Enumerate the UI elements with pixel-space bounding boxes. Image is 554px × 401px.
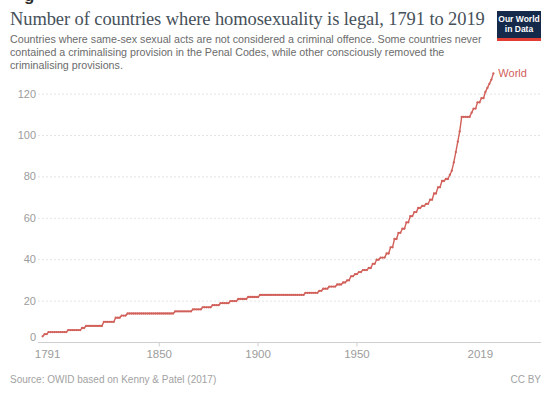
data-point-marker[interactable] — [101, 325, 103, 327]
data-point-marker[interactable] — [419, 207, 421, 209]
data-point-marker[interactable] — [134, 312, 136, 314]
data-point-marker[interactable] — [401, 228, 403, 230]
data-point-marker[interactable] — [378, 259, 380, 261]
data-point-marker[interactable] — [49, 331, 51, 333]
data-point-marker[interactable] — [121, 314, 123, 316]
data-point-marker[interactable] — [75, 329, 77, 331]
data-point-marker[interactable] — [239, 298, 241, 300]
data-point-marker[interactable] — [202, 306, 204, 308]
data-point-marker[interactable] — [65, 331, 67, 333]
data-point-marker[interactable] — [385, 252, 387, 254]
data-point-marker[interactable] — [57, 331, 59, 333]
data-point-marker[interactable] — [334, 285, 336, 287]
data-point-marker[interactable] — [136, 312, 138, 314]
data-point-marker[interactable] — [221, 302, 223, 304]
data-point-marker[interactable] — [461, 116, 463, 118]
data-point-marker[interactable] — [253, 296, 255, 298]
data-point-marker[interactable] — [231, 300, 233, 302]
data-point-marker[interactable] — [423, 205, 425, 207]
data-point-marker[interactable] — [215, 304, 217, 306]
data-point-marker[interactable] — [138, 312, 140, 314]
data-point-marker[interactable] — [194, 308, 196, 310]
data-point-marker[interactable] — [267, 294, 269, 296]
data-point-marker[interactable] — [249, 296, 251, 298]
data-point-marker[interactable] — [425, 203, 427, 205]
data-point-marker[interactable] — [271, 294, 273, 296]
data-point-marker[interactable] — [362, 269, 364, 271]
data-point-marker[interactable] — [476, 101, 478, 103]
data-point-marker[interactable] — [342, 281, 344, 283]
data-point-marker[interactable] — [330, 285, 332, 287]
data-point-marker[interactable] — [316, 292, 318, 294]
data-point-marker[interactable] — [403, 228, 405, 230]
data-point-marker[interactable] — [211, 304, 213, 306]
data-point-marker[interactable] — [200, 308, 202, 310]
data-point-marker[interactable] — [85, 325, 87, 327]
data-point-marker[interactable] — [465, 116, 467, 118]
data-point-marker[interactable] — [451, 170, 453, 172]
data-point-marker[interactable] — [435, 192, 437, 194]
data-point-marker[interactable] — [413, 211, 415, 213]
data-point-marker[interactable] — [245, 298, 247, 300]
data-point-marker[interactable] — [45, 333, 47, 335]
data-point-marker[interactable] — [447, 178, 449, 180]
data-point-marker[interactable] — [107, 321, 109, 323]
data-point-marker[interactable] — [427, 203, 429, 205]
data-point-marker[interactable] — [470, 112, 472, 114]
data-point-marker[interactable] — [474, 107, 476, 109]
data-point-marker[interactable] — [176, 310, 178, 312]
data-point-marker[interactable] — [370, 267, 372, 269]
data-point-marker[interactable] — [322, 288, 324, 290]
data-point-marker[interactable] — [142, 312, 144, 314]
data-point-marker[interactable] — [132, 312, 134, 314]
data-point-marker[interactable] — [314, 292, 316, 294]
data-point-marker[interactable] — [300, 294, 302, 296]
data-point-marker[interactable] — [449, 174, 451, 176]
data-point-marker[interactable] — [164, 312, 166, 314]
data-point-marker[interactable] — [374, 263, 376, 265]
data-point-marker[interactable] — [360, 271, 362, 273]
data-point-marker[interactable] — [229, 300, 231, 302]
license-link[interactable]: CC BY — [510, 374, 541, 385]
data-point-marker[interactable] — [431, 199, 433, 201]
data-point-marker[interactable] — [69, 329, 71, 331]
data-point-marker[interactable] — [51, 331, 53, 333]
data-point-marker[interactable] — [344, 281, 346, 283]
data-point-marker[interactable] — [393, 238, 395, 240]
data-point-marker[interactable] — [257, 296, 259, 298]
data-point-marker[interactable] — [383, 256, 385, 258]
data-point-marker[interactable] — [247, 296, 249, 298]
data-point-marker[interactable] — [433, 192, 435, 194]
data-point-marker[interactable] — [152, 312, 154, 314]
data-point-marker[interactable] — [196, 308, 198, 310]
data-point-marker[interactable] — [326, 288, 328, 290]
chart-canvas[interactable]: 02040608010012017911850190019502019World — [0, 58, 554, 360]
data-point-marker[interactable] — [472, 107, 474, 109]
data-point-marker[interactable] — [463, 116, 465, 118]
data-point-marker[interactable] — [459, 130, 461, 132]
data-point-marker[interactable] — [486, 87, 488, 89]
data-point-marker[interactable] — [332, 285, 334, 287]
data-point-marker[interactable] — [219, 302, 221, 304]
data-point-marker[interactable] — [281, 294, 283, 296]
data-point-marker[interactable] — [103, 321, 105, 323]
data-point-marker[interactable] — [368, 267, 370, 269]
data-point-marker[interactable] — [306, 292, 308, 294]
data-point-marker[interactable] — [298, 294, 300, 296]
data-point-marker[interactable] — [391, 246, 393, 248]
data-point-marker[interactable] — [95, 325, 97, 327]
data-point-marker[interactable] — [119, 317, 121, 319]
data-point-marker[interactable] — [415, 211, 417, 213]
data-point-marker[interactable] — [324, 288, 326, 290]
data-point-marker[interactable] — [437, 186, 439, 188]
data-point-marker[interactable] — [217, 304, 219, 306]
data-point-marker[interactable] — [381, 256, 383, 258]
data-point-marker[interactable] — [81, 327, 83, 329]
owid-logo[interactable]: Our World in Data — [497, 11, 541, 41]
data-point-marker[interactable] — [340, 283, 342, 285]
data-point-marker[interactable] — [279, 294, 281, 296]
data-point-marker[interactable] — [289, 294, 291, 296]
data-point-marker[interactable] — [291, 294, 293, 296]
data-point-marker[interactable] — [484, 91, 486, 93]
data-point-marker[interactable] — [312, 292, 314, 294]
